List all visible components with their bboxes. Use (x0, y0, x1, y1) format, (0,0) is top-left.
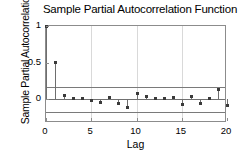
x-tick-label: 20 (216, 125, 236, 136)
y-tick-label: 1 (1, 19, 41, 30)
stem-marker (108, 96, 111, 99)
stem-marker (117, 102, 120, 105)
stem-marker (145, 95, 148, 98)
stem-marker (126, 106, 129, 109)
x-tick-mark (182, 118, 183, 121)
chart-title: Sample Partial Autocorrelation Function (30, 3, 250, 15)
x-tick-label: 0 (35, 125, 55, 136)
gridline-vertical (182, 26, 183, 121)
x-tick-mark (227, 118, 228, 121)
x-tick-label: 5 (80, 125, 100, 136)
stem-marker (54, 61, 57, 64)
plot-area (45, 25, 226, 122)
chart-figure: Sample Partial Autocorrelation Function … (0, 0, 250, 157)
y-tick-mark (46, 26, 49, 27)
upper-confidence-bound (46, 87, 225, 88)
y-tick-label: 0 (1, 92, 41, 103)
stem-marker (136, 92, 139, 95)
x-tick-label: 15 (171, 125, 191, 136)
lower-confidence-bound (46, 112, 225, 113)
x-tick-mark (137, 118, 138, 121)
stem-marker (81, 97, 84, 100)
x-tick-label: 10 (126, 125, 146, 136)
zero-baseline (46, 99, 225, 100)
y-tick-mark (46, 99, 49, 100)
stem-marker (99, 101, 102, 104)
x-tick-mark (46, 118, 47, 121)
stem-marker (172, 96, 175, 99)
stem-marker (72, 97, 75, 100)
stem-marker (154, 97, 157, 100)
gridline-vertical (91, 26, 92, 121)
stem-marker (208, 97, 211, 100)
stem-marker (163, 97, 166, 100)
x-axis-label: Lag (45, 138, 226, 150)
gridline-vertical (137, 26, 138, 121)
stem-marker (90, 99, 93, 102)
stem-marker (181, 103, 184, 106)
y-tick-label: 0.5 (1, 56, 41, 67)
y-tick-mark (46, 63, 49, 64)
stem-marker (217, 88, 220, 91)
stem-marker (190, 95, 193, 98)
stem-marker (199, 102, 202, 105)
x-tick-mark (91, 118, 92, 121)
stem-line (55, 62, 56, 99)
stem-marker (63, 94, 66, 97)
stem-marker (226, 104, 229, 107)
